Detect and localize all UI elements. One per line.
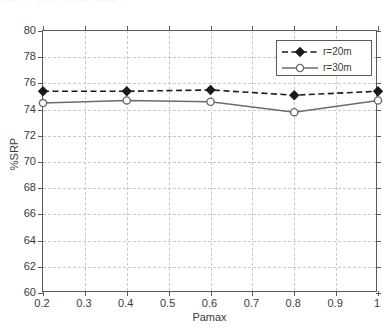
y-tick-label: 76 (0, 77, 36, 88)
data-point-marker (291, 109, 298, 116)
data-point-marker (206, 86, 214, 94)
tick-mark-y (38, 293, 43, 294)
y-tick-label: 66 (0, 208, 36, 219)
y-tick-label: 74 (0, 104, 36, 115)
y-tick-label: 80 (0, 25, 36, 36)
y-tick-label: 60 (0, 287, 36, 298)
legend-label: r=30m (323, 62, 352, 74)
x-tick-label: 0.9 (315, 298, 355, 309)
data-point-marker (123, 97, 130, 104)
data-point-marker (290, 91, 298, 99)
x-tick-label: 1 (357, 298, 392, 309)
legend-line-icon (281, 44, 319, 60)
data-point-marker (207, 98, 214, 105)
x-tick-label: 0.3 (64, 298, 104, 309)
x-axis-title: Pamax (42, 311, 377, 323)
data-point-marker (374, 87, 382, 95)
tick-mark-y (376, 293, 381, 294)
chart-legend: r=20mr=30m (276, 40, 372, 76)
legend-marker (296, 48, 304, 56)
y-tick-label: 64 (0, 235, 36, 246)
y-axis-title: %SRP (8, 124, 20, 184)
legend-line-icon (281, 60, 319, 76)
legend-marker (296, 64, 303, 71)
legend-entry: r=20m (277, 44, 373, 60)
series-r-30m (39, 97, 381, 116)
legend-sample-circle-icon (281, 60, 319, 76)
x-tick-label: 0.5 (148, 298, 188, 309)
data-point-marker (39, 87, 47, 95)
x-tick-label: 0.8 (273, 298, 313, 309)
chart-figure: 6062646668707274767880 0.20.30.40.50.60.… (0, 0, 392, 330)
x-tick-label: 0.2 (22, 298, 62, 309)
x-tick-label: 0.7 (231, 298, 271, 309)
legend-label: r=20m (323, 46, 352, 58)
y-tick-label: 62 (0, 261, 36, 272)
data-point-marker (374, 97, 381, 104)
x-tick-label: 0.4 (106, 298, 146, 309)
series-r-20m (39, 86, 382, 100)
legend-entry: r=30m (277, 60, 373, 76)
y-tick-label: 78 (0, 51, 36, 62)
data-point-marker (123, 87, 131, 95)
x-tick-label: 0.6 (190, 298, 230, 309)
data-point-marker (39, 99, 46, 106)
legend-sample-diamond-icon (281, 44, 319, 60)
